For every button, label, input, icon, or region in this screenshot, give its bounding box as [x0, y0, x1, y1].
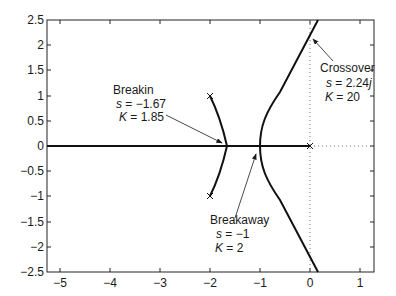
breakin-title: Breakin [113, 83, 154, 97]
y-tick-label: 0 [37, 139, 44, 153]
crossover-annotation: Crossover s = 2.24j K = 20 [320, 61, 375, 104]
breakaway-s-value: s = −1 [216, 227, 250, 241]
x-tick-label: −1 [253, 276, 267, 290]
y-tick-label: 2 [37, 38, 44, 52]
y-tick-label: 1 [37, 89, 44, 103]
crossover-arrow [313, 39, 333, 61]
crossover-title: Crossover [320, 61, 375, 75]
x-tick-labels: −5 −4 −3 −2 −1 0 1 [53, 276, 364, 290]
branch-upper-asymptote [260, 20, 318, 146]
y-tick-labels: 2.5 2 1.5 1 0.5 0 −0.5 −1 −1.5 −2 −2.5 [20, 13, 44, 279]
crossover-s-value: s = 2.24j [326, 76, 372, 90]
y-tick-label: −1 [30, 189, 44, 203]
x-tick-label: −4 [103, 276, 117, 290]
root-locus-plot: −5 −4 −3 −2 −1 0 1 2.5 2 1.5 1 0.5 0 −0.… [0, 0, 396, 296]
y-tick-label: −2 [30, 240, 44, 254]
x-tick-label: 0 [307, 276, 314, 290]
y-tick-label: 1.5 [27, 63, 44, 77]
breakaway-title: Breakaway [210, 213, 269, 227]
breakaway-k-value: K = 2 [215, 241, 244, 255]
breakaway-arrow [235, 154, 256, 218]
breakin-k-value: K = 1.85 [119, 110, 164, 124]
x-tick-label: −5 [53, 276, 67, 290]
x-tick-label: −3 [153, 276, 167, 290]
crossover-k-value: K = 20 [325, 90, 360, 104]
branch-lower-asymptote [260, 146, 318, 272]
branch-lower-complex-pole [210, 146, 227, 196]
y-tick-label: −0.5 [20, 164, 44, 178]
x-tick-label: −2 [203, 276, 217, 290]
breakin-arrow [166, 115, 222, 143]
breakin-annotation: Breakin s = −1.67 K = 1.85 [113, 83, 166, 124]
y-tick-label: −2.5 [20, 265, 44, 279]
breakaway-annotation: Breakaway s = −1 K = 2 [210, 213, 269, 255]
y-tick-label: −1.5 [20, 215, 44, 229]
x-tick-label: 1 [357, 276, 364, 290]
y-tick-label: 2.5 [27, 13, 44, 27]
y-tick-label: 0.5 [27, 114, 44, 128]
breakin-s-value: s = −1.67 [116, 97, 166, 111]
